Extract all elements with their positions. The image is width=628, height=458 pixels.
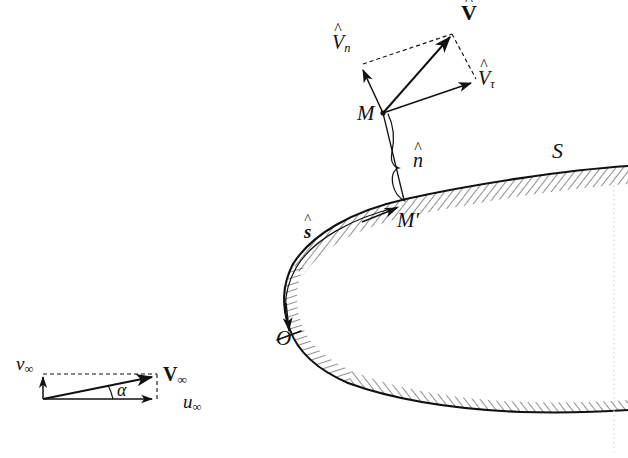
surface-hatching-lower [348,371,628,412]
figure-root: ^ V ^ V n ^ V τ M M′ ^ n ^ s S O [0,0,628,458]
freestream-V-arrow [43,377,152,399]
label-origin-O: O [276,328,291,349]
label-velocity-Vn: ^ V n [332,32,350,55]
label-velocity-V: ^ V [461,2,477,24]
label-freestream-V: V∞ [163,364,187,387]
label-arc-coordinate: ^ s [304,222,311,241]
label-unit-normal: ^ n [413,150,423,170]
label-velocity-Vtau: ^ V τ [478,68,495,91]
point-M-dot [380,110,385,115]
angle-of-attack-arc [108,385,113,399]
label-angle-of-attack: α [117,381,126,399]
parallelogram-dashed-right [452,34,476,79]
normal-brace [388,114,405,201]
label-surface-S: S [552,140,563,162]
label-point-M-prime: M′ [397,210,419,231]
label-freestream-v: v∞ [16,354,33,376]
aerodynamic-diagram-svg [0,0,628,458]
label-point-M: M [357,103,375,124]
label-freestream-u: u∞ [183,392,201,414]
